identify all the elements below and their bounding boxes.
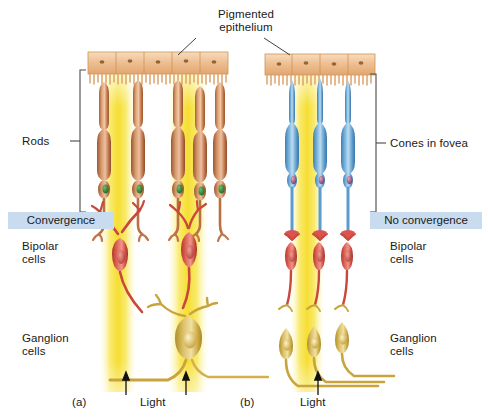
bipolar-cells-label-right: Bipolar cells: [390, 240, 427, 266]
cones-in-fovea-label: Cones in fovea: [390, 137, 468, 150]
convergence-banner: Convergence: [8, 212, 114, 229]
bipolar-cells-label-left: Bipolar cells: [22, 240, 59, 266]
retina-convergence-figure: Pigmented epithelium Rods Cones in fovea…: [0, 0, 488, 420]
panel-b-label: (b): [240, 396, 254, 409]
rod-cell: [213, 82, 228, 241]
ganglion-cell: [335, 322, 394, 376]
panel-a-label: (a): [72, 396, 86, 409]
bipolar-cell: [335, 234, 355, 311]
rods-label: Rods: [22, 135, 49, 148]
pigmented-epithelium-label: Pigmented epithelium: [196, 8, 296, 34]
light-label-b: Light: [300, 396, 325, 409]
bracket-cones: [370, 74, 386, 212]
ganglion-cells-label-left: Ganglion cells: [22, 332, 69, 358]
ganglion-cells-label-right: Ganglion cells: [390, 332, 437, 358]
no-convergence-banner: No convergence: [370, 212, 482, 229]
cone-cell: [341, 80, 355, 240]
light-label-a: Light: [140, 396, 165, 409]
bracket-rods: [70, 70, 86, 212]
